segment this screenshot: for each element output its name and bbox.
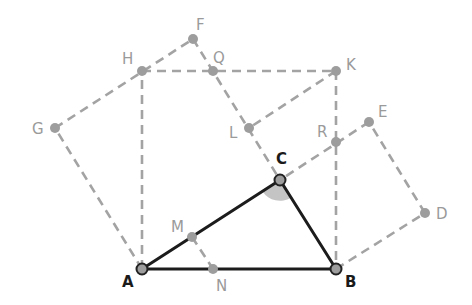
segment-kl bbox=[249, 71, 336, 128]
point-f bbox=[188, 34, 198, 44]
point-e bbox=[364, 117, 374, 127]
label-k: K bbox=[346, 56, 357, 74]
point-l bbox=[244, 123, 254, 133]
label-n: N bbox=[216, 277, 227, 295]
label-r: R bbox=[317, 123, 327, 141]
label-a: A bbox=[122, 273, 134, 291]
label-h: H bbox=[122, 50, 133, 68]
labels: A B C D E F G H K L M N Q R bbox=[32, 16, 448, 295]
label-q: Q bbox=[213, 49, 225, 67]
label-d: D bbox=[436, 205, 448, 223]
point-k bbox=[331, 66, 341, 76]
point-n bbox=[208, 264, 218, 274]
point-h bbox=[137, 66, 147, 76]
point-r bbox=[331, 137, 341, 147]
segment-bd bbox=[336, 213, 425, 269]
label-b: B bbox=[345, 273, 356, 291]
point-d bbox=[420, 208, 430, 218]
point-g bbox=[50, 123, 60, 133]
label-e: E bbox=[378, 103, 387, 121]
label-m: M bbox=[171, 218, 184, 236]
point-a bbox=[137, 264, 148, 275]
segment-mn bbox=[192, 237, 213, 269]
point-m bbox=[187, 232, 197, 242]
geometry-diagram: A B C D E F G H K L M N Q R bbox=[0, 0, 472, 305]
point-c bbox=[275, 175, 286, 186]
dashed-lines bbox=[55, 39, 425, 269]
segment-fc bbox=[193, 39, 280, 180]
point-q bbox=[208, 66, 218, 76]
label-f: F bbox=[196, 16, 205, 34]
label-c: C bbox=[276, 150, 287, 168]
segment-de bbox=[369, 122, 425, 213]
point-b bbox=[331, 264, 342, 275]
label-l: L bbox=[229, 124, 238, 142]
segment-ag bbox=[55, 128, 142, 269]
label-g: G bbox=[32, 120, 44, 138]
